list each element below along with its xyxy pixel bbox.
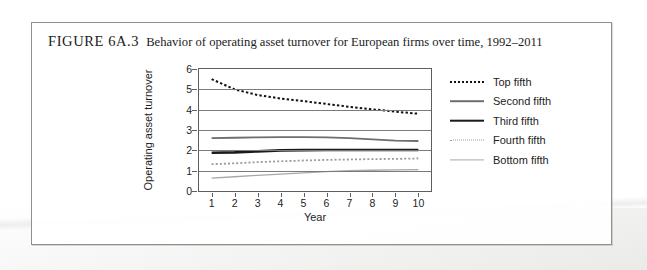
gridline bbox=[199, 89, 431, 90]
page: FIGURE 6A.3Behavior of operating asset t… bbox=[0, 0, 647, 270]
x-axis-title: Year bbox=[198, 211, 432, 223]
legend-item[interactable]: Third fifth bbox=[450, 111, 600, 131]
x-tick-label: 10 bbox=[413, 198, 425, 209]
gridline bbox=[199, 130, 431, 131]
y-tick-mark bbox=[192, 150, 197, 151]
x-tick-label: 1 bbox=[209, 198, 215, 209]
series-line bbox=[212, 137, 419, 141]
gridline bbox=[199, 110, 431, 111]
legend-item[interactable]: Second fifth bbox=[450, 92, 600, 112]
x-tick-label: 5 bbox=[301, 198, 307, 209]
x-tick-mark bbox=[281, 193, 282, 197]
x-tick-mark bbox=[327, 193, 328, 197]
x-tick-label: 3 bbox=[255, 198, 261, 209]
series-line bbox=[212, 158, 419, 164]
legend-item[interactable]: Top fifth bbox=[450, 72, 600, 92]
y-axis-title: Operating asset turnover bbox=[142, 68, 156, 192]
legend-item[interactable]: Bottom fifth bbox=[450, 150, 600, 170]
legend-label: Fourth fifth bbox=[493, 134, 546, 146]
gridline bbox=[199, 171, 431, 172]
series-line bbox=[212, 79, 419, 114]
x-tick-mark bbox=[350, 193, 351, 197]
x-tick-mark bbox=[258, 193, 259, 197]
x-tick-mark bbox=[418, 193, 419, 197]
x-tick-mark bbox=[235, 193, 236, 197]
x-tick-label: 8 bbox=[369, 198, 375, 209]
legend-swatch-icon bbox=[450, 95, 484, 107]
gridline bbox=[199, 150, 431, 151]
x-tick-mark bbox=[395, 193, 396, 197]
y-tick-mark bbox=[192, 171, 197, 172]
x-tick-mark bbox=[212, 193, 213, 197]
y-tick-mark bbox=[192, 130, 197, 131]
legend-label: Second fifth bbox=[493, 95, 551, 107]
y-tick-mark bbox=[192, 69, 197, 70]
x-tick-label: 9 bbox=[392, 198, 398, 209]
legend-swatch-icon bbox=[450, 134, 484, 146]
legend-swatch-icon bbox=[450, 154, 484, 166]
y-tick-mark bbox=[192, 89, 197, 90]
plot-area bbox=[198, 68, 432, 192]
y-tick-mark bbox=[192, 191, 197, 192]
x-tick-label: 2 bbox=[232, 198, 238, 209]
figure-frame: FIGURE 6A.3Behavior of operating asset t… bbox=[31, 22, 612, 245]
x-tick-label: 6 bbox=[324, 198, 330, 209]
x-tick-label: 4 bbox=[278, 198, 284, 209]
x-tick-mark bbox=[372, 193, 373, 197]
legend-swatch-icon bbox=[450, 115, 484, 127]
legend-swatch-icon bbox=[450, 76, 484, 88]
legend-item[interactable]: Fourth fifth bbox=[450, 131, 600, 151]
legend-label: Third fifth bbox=[493, 115, 539, 127]
chart-legend: Top fifthSecond fifthThird fifthFourth f… bbox=[450, 72, 600, 170]
x-tick-mark bbox=[304, 193, 305, 197]
figure-number: FIGURE 6A.3 bbox=[48, 33, 139, 49]
plot-inner bbox=[199, 69, 431, 191]
x-tick-label: 7 bbox=[347, 198, 353, 209]
legend-label: Bottom fifth bbox=[493, 154, 549, 166]
y-tick-mark bbox=[192, 110, 197, 111]
chart: Operating asset turnover 0123456 1234567… bbox=[136, 45, 596, 230]
x-axis-tick-labels: 12345678910 bbox=[198, 193, 432, 211]
legend-label: Top fifth bbox=[493, 76, 532, 88]
